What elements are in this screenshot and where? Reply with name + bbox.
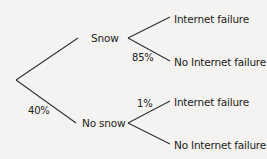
probability-nosnow-failure: 1% xyxy=(137,98,152,110)
leaf-nosnow-no-internet-failure: No Internet failure xyxy=(174,139,266,151)
branch-snow-failure xyxy=(128,17,170,38)
branch-root-snow xyxy=(16,38,78,80)
leaf-nosnow-internet-failure: Internet failure xyxy=(174,96,249,108)
node-no-snow: No snow xyxy=(82,117,125,129)
branch-nosnow-no-failure xyxy=(128,123,170,144)
node-snow: Snow xyxy=(91,32,119,44)
probability-snow-no-failure: 85% xyxy=(132,52,154,64)
leaf-snow-no-internet-failure: No Internet failure xyxy=(174,56,266,68)
probability-no-snow: 40% xyxy=(28,105,50,117)
leaf-snow-internet-failure: Internet failure xyxy=(174,13,249,25)
